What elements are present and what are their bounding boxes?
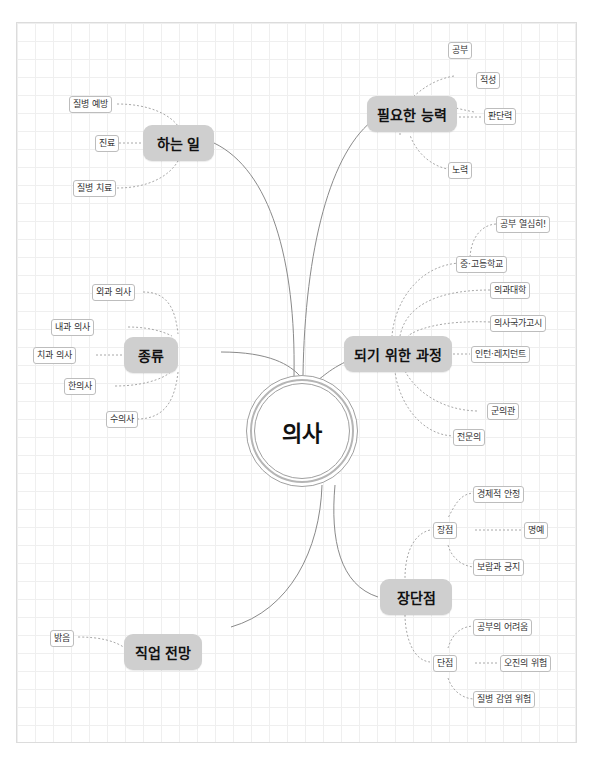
leaf-kinds-internist[interactable]: 내과 의사 [51,319,94,336]
leaf-outlook-bright[interactable]: 밝음 [50,630,74,647]
leaf-pros-pride[interactable]: 보람과 긍지 [473,559,524,576]
topic-path[interactable]: 되기 위한 과정 [344,336,452,372]
central-topic[interactable]: 의사 [246,375,358,487]
leaf-work-treatment[interactable]: 진료 [95,135,119,152]
leaf-path-exam[interactable]: 의사국가고시 [490,315,546,332]
leaf-path-specialist[interactable]: 전문의 [453,429,485,446]
leaf-pros-stability[interactable]: 경제적 안정 [473,486,524,503]
leaf-kinds-surgeon[interactable]: 외과 의사 [92,284,135,301]
central-topic-label: 의사 [282,415,322,447]
leaf-kinds-dentist[interactable]: 치과 의사 [33,347,76,364]
leaf-cons-study[interactable]: 공부의 어려움 [473,619,532,636]
leaf-path-medschool[interactable]: 의과대학 [490,282,530,299]
leaf-ability-aptitude[interactable]: 적성 [476,72,500,89]
leaf-path-school[interactable]: 중·고등학교 [456,256,507,273]
leaf-path-intern[interactable]: 인턴·레지던트 [471,346,530,363]
topic-outlook[interactable]: 직업 전망 [124,634,202,670]
topic-ability[interactable]: 필요한 능력 [367,96,457,132]
leaf-cons-misdiagnosis[interactable]: 오진의 위험 [500,655,551,672]
topic-proscons[interactable]: 장단점 [380,579,452,615]
leaf-ability-effort[interactable]: 노력 [448,162,472,179]
leaf-work-prevention[interactable]: 질병 예방 [69,96,112,113]
leaf-ability-judgment[interactable]: 판단력 [484,108,516,125]
leaf-pros-honor[interactable]: 명예 [524,522,548,539]
topic-kinds[interactable]: 종류 [124,337,178,373]
node-cons[interactable]: 단점 [433,655,457,672]
topic-work[interactable]: 하는 일 [143,125,214,161]
leaf-path-study-hard[interactable]: 공부 열심히! [496,216,550,233]
leaf-ability-study[interactable]: 공부 [448,42,472,59]
leaf-cons-infection[interactable]: 질병 감염 위험 [473,691,535,708]
leaf-work-cure[interactable]: 질병 치료 [73,180,116,197]
leaf-kinds-vet[interactable]: 수의사 [106,411,138,428]
leaf-kinds-oriental[interactable]: 한의사 [64,378,96,395]
node-pros[interactable]: 장점 [433,522,457,539]
leaf-path-military[interactable]: 군의관 [487,403,519,420]
